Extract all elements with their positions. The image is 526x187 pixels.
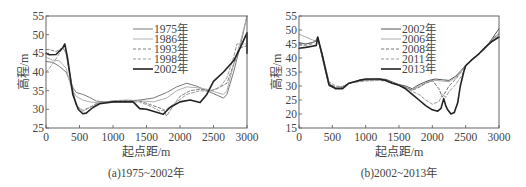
x-tick-label: 1500 xyxy=(388,131,411,143)
y-tick-label: 45 xyxy=(286,38,298,50)
x-tick-label: 2500 xyxy=(202,131,225,143)
y-tick-label: 35 xyxy=(33,85,45,97)
y-tick-label: 55 xyxy=(286,10,298,22)
x-tick-label: 2000 xyxy=(421,131,444,143)
x-tick-label: 500 xyxy=(324,131,342,143)
y-tick-label: 20 xyxy=(286,108,298,120)
legend-a: 1975年1986年1993年1998年2002年 xyxy=(133,22,188,75)
legend-label: 2013年 xyxy=(402,62,436,75)
series-line-2002 xyxy=(46,33,247,114)
x-tick-label: 0 xyxy=(43,131,49,143)
axis-ticks-b: 0500100015002000250030001520253035404550… xyxy=(286,10,511,143)
series-lines-b xyxy=(299,29,499,114)
x-axis-label-a: 起点距/m xyxy=(122,145,171,159)
y-axis-label-b: 高程/m xyxy=(269,53,284,90)
x-tick-label: 3000 xyxy=(236,131,259,143)
series-lines-a xyxy=(46,16,247,116)
legend-b: 2002年2006年2008年2011年2013年 xyxy=(381,22,436,75)
chart-panel-a: 05001000150020002500300025303540455055 1… xyxy=(16,10,259,180)
axis-ticks-a: 05001000150020002500300025303540455055 xyxy=(33,10,259,143)
chart-figure: 05001000150020002500300025303540455055 1… xyxy=(0,0,526,187)
y-tick-label: 25 xyxy=(33,122,45,134)
x-tick-label: 500 xyxy=(71,131,89,143)
series-line-2011 xyxy=(299,36,499,105)
y-tick-label: 30 xyxy=(33,103,45,115)
y-tick-label: 35 xyxy=(286,66,298,78)
legend-label: 2002年 xyxy=(154,62,188,75)
plot-frame-b xyxy=(299,16,499,128)
y-axis-label-a: 高程/m xyxy=(16,53,31,90)
x-tick-label: 1000 xyxy=(354,131,377,143)
y-tick-label: 50 xyxy=(33,29,45,41)
y-tick-label: 50 xyxy=(286,24,298,36)
x-tick-label: 0 xyxy=(296,131,302,143)
caption-b: (b)2002~2013年 xyxy=(361,166,438,180)
y-tick-label: 55 xyxy=(33,10,45,22)
x-tick-label: 1000 xyxy=(102,131,125,143)
x-tick-label: 2000 xyxy=(169,131,192,143)
caption-a: (a)1975~2002年 xyxy=(108,166,184,180)
x-axis-label-b: 起点距/m xyxy=(375,145,424,159)
x-tick-label: 2500 xyxy=(454,131,477,143)
series-line-2008 xyxy=(299,34,499,97)
x-tick-label: 1500 xyxy=(135,131,158,143)
y-tick-label: 45 xyxy=(33,47,45,59)
y-tick-label: 25 xyxy=(286,94,298,106)
x-tick-label: 3000 xyxy=(488,131,511,143)
y-tick-label: 40 xyxy=(33,66,45,78)
chart-panel-b: 0500100015002000250030001520253035404550… xyxy=(269,10,511,180)
plot-frame-a xyxy=(46,16,247,128)
y-tick-label: 15 xyxy=(286,122,298,134)
y-tick-label: 40 xyxy=(286,52,298,64)
y-tick-label: 30 xyxy=(286,80,298,92)
